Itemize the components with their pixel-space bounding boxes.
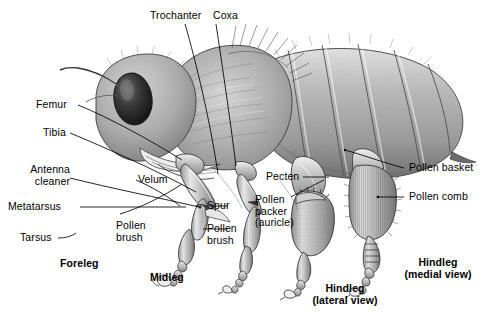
label-pollen-brush-foreleg-line2: brush	[116, 232, 146, 244]
label-spur: Spur	[207, 200, 230, 212]
label-femur: Femur	[36, 99, 67, 111]
label-antenna-cleaner: Antenna cleaner	[0, 164, 70, 187]
label-pollen-packer-line3: (auricle)	[255, 217, 294, 229]
label-pollen-brush-foreleg-line1: Pollen	[116, 220, 146, 232]
leader-antenna-cleaner	[70, 178, 199, 207]
label-antenna-cleaner-line1: Antenna	[0, 164, 70, 176]
label-pollen-comb: Pollen comb	[409, 191, 468, 203]
label-trochanter: Trochanter	[150, 10, 201, 22]
caption-hindleg-lateral-line1: Hindleg	[300, 283, 390, 295]
caption-foreleg: Foreleg	[60, 258, 99, 270]
label-tibia: Tibia	[43, 127, 66, 139]
label-pollen-brush-midleg-line1: Pollen	[207, 223, 237, 235]
caption-hindleg-medial-line2: (medial view)	[388, 269, 488, 281]
label-antenna-cleaner-line2: cleaner	[0, 176, 70, 188]
leader-tarsus	[58, 233, 76, 238]
caption-hindleg-medial: Hindleg (medial view)	[388, 257, 488, 280]
label-pollen-brush-midleg: Pollen brush	[207, 223, 237, 246]
label-pollen-brush-foreleg: Pollen brush	[116, 220, 146, 243]
caption-hindleg-lateral-line2: (lateral view)	[300, 295, 390, 307]
label-coxa: Coxa	[213, 10, 238, 22]
label-pollen-brush-midleg-line2: brush	[207, 235, 237, 247]
leader-pollen-brush-fore2	[120, 184, 182, 214]
label-velum: Velum	[138, 174, 168, 186]
caption-hindleg-lateral: Hindleg (lateral view)	[300, 283, 390, 306]
label-metatarsus: Metatarsus	[8, 201, 61, 213]
figure-canvas: Trochanter Coxa Femur Tibia Antenna clea…	[0, 0, 490, 315]
label-pollen-packer: Pollen packer (auricle)	[255, 194, 294, 229]
caption-midleg: Midleg	[150, 272, 184, 284]
caption-hindleg-medial-line1: Hindleg	[388, 257, 488, 269]
label-pecten: Pecten	[266, 171, 299, 183]
label-tarsus: Tarsus	[20, 232, 52, 244]
label-pollen-basket: Pollen basket	[409, 162, 473, 174]
label-pollen-packer-line1: Pollen	[255, 194, 294, 206]
